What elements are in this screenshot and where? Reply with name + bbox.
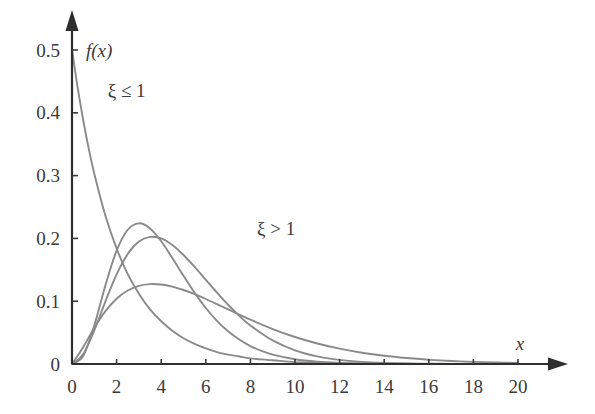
weibull-gamma-pdf-chart: 0246810121416182000.10.20.30.40.5 ξ ≤ 1ξ… bbox=[0, 0, 595, 414]
curve-series-3 bbox=[72, 284, 518, 364]
x-tick-label: 20 bbox=[509, 376, 528, 397]
figure-container: 0246810121416182000.10.20.30.40.5 ξ ≤ 1ξ… bbox=[0, 0, 595, 414]
x-tick-label: 18 bbox=[464, 376, 483, 397]
y-tick-label: 0.1 bbox=[36, 291, 60, 312]
y-tick-label: 0.4 bbox=[36, 102, 60, 123]
x-axis-arrow-icon bbox=[548, 358, 568, 371]
x-tick-label: 12 bbox=[330, 376, 349, 397]
y-tick-label: 0.3 bbox=[36, 165, 60, 186]
axes-group bbox=[66, 10, 569, 371]
y-tick-label: 0 bbox=[51, 354, 61, 375]
curve-series-2 bbox=[72, 237, 518, 364]
x-tick-label: 0 bbox=[67, 376, 77, 397]
x-axis-label: x bbox=[515, 333, 525, 354]
y-axis-arrow-icon bbox=[66, 10, 79, 31]
x-tick-label: 10 bbox=[286, 376, 305, 397]
axis-names-group: f(x)x bbox=[86, 40, 525, 354]
y-tick-label: 0.2 bbox=[36, 228, 60, 249]
x-tick-label: 4 bbox=[156, 376, 166, 397]
x-tick-label: 6 bbox=[201, 376, 211, 397]
x-tick-label: 2 bbox=[112, 376, 122, 397]
annotations-group: ξ ≤ 1ξ > 1 bbox=[108, 80, 296, 239]
y-axis-label: f(x) bbox=[86, 40, 112, 62]
x-tick-label: 8 bbox=[246, 376, 256, 397]
xi-gt-1-label: ξ > 1 bbox=[257, 218, 295, 239]
x-tick-label: 16 bbox=[419, 376, 438, 397]
xi-le-1-label: ξ ≤ 1 bbox=[108, 80, 146, 101]
y-tick-label: 0.5 bbox=[36, 40, 60, 61]
x-tick-label: 14 bbox=[375, 376, 395, 397]
